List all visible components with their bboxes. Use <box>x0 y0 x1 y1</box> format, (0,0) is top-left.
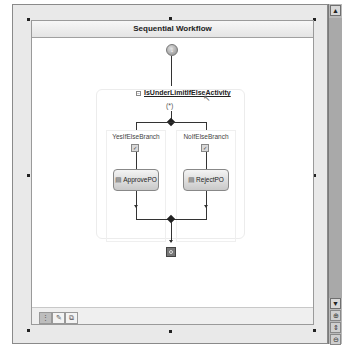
zoom-out-icon: ⊖ <box>333 336 339 343</box>
pan-button[interactable]: ⇕ <box>330 322 341 333</box>
zoom-in-button[interactable]: ⊕ <box>330 310 341 321</box>
selection-handle-bc[interactable] <box>169 330 172 333</box>
tab-fault-handlers-view[interactable]: ⧉ <box>65 312 78 324</box>
selection-handle-br[interactable] <box>313 329 316 332</box>
tab-cancel-handler-view[interactable]: ✎ <box>52 312 65 324</box>
scroll-down-icon: ▼ <box>332 300 339 307</box>
connector-line <box>136 152 137 170</box>
branch-condition-icon: ✓ <box>201 144 209 152</box>
arrow-head-icon <box>204 205 208 208</box>
arrow-head-icon <box>134 205 138 208</box>
connector-line <box>206 122 207 130</box>
scrollbar-track[interactable] <box>329 18 342 298</box>
arrow-head-icon <box>169 240 173 243</box>
code-activity-icon: ▤ <box>115 176 122 183</box>
workflow-start-icon: ↓ <box>166 44 178 56</box>
workflow-end-icon <box>166 247 176 257</box>
activity-reject-po[interactable]: ▤RejectPO <box>183 169 229 191</box>
connector-line <box>171 222 172 242</box>
zoom-in-icon: ⊕ <box>333 312 339 319</box>
activity-approve-po[interactable]: ▤ApprovePO <box>113 169 159 191</box>
vertical-scrollbar[interactable]: ▲ ▼ ⊕ ⇕ ⊖ <box>328 4 342 344</box>
sequential-workflow[interactable]: Sequential Workflow ↓ − IsUnderLimitIfEl… <box>31 20 314 325</box>
scroll-up-icon: ▲ <box>332 7 339 14</box>
collapse-icon[interactable]: − <box>136 91 141 96</box>
branch-label: YesIfElseBranch <box>107 133 165 140</box>
code-activity-icon: ▤ <box>188 176 195 183</box>
cancel-handler-icon: ✎ <box>56 314 62 321</box>
connector-line <box>171 56 172 86</box>
ifelse-activity-name[interactable]: IsUnderLimitIfElseActivity <box>144 89 231 96</box>
view-tabs-bar: ⋮ ✎ ⧉ <box>32 307 313 324</box>
branch-condition-icon: ✓ <box>131 144 139 152</box>
activity-label: ApprovePO <box>123 176 157 183</box>
minus-icon: − <box>137 90 140 96</box>
selection-handle-bl[interactable] <box>27 329 30 332</box>
condition-icon: (*) <box>166 102 173 109</box>
connector-line <box>136 122 137 130</box>
pan-icon: ⇕ <box>333 324 339 331</box>
selection-handle-tl[interactable] <box>27 18 30 21</box>
start-arrow-icon: ↓ <box>170 46 174 53</box>
selection-handle-ml[interactable] <box>27 174 30 177</box>
activity-label: RejectPO <box>196 176 224 183</box>
mouse-cursor-icon: ↖ <box>203 93 211 103</box>
connector-line <box>206 209 207 219</box>
zoom-out-button[interactable]: ⊖ <box>330 334 341 345</box>
workflow-canvas: ↓ − IsUnderLimitIfElseActivity ↖ (*) Yes… <box>32 37 313 308</box>
connector-line <box>136 209 137 219</box>
branch-label: NoIfElseBranch <box>177 133 235 140</box>
scroll-up-button[interactable]: ▲ <box>330 5 341 16</box>
scroll-down-button[interactable]: ▼ <box>330 298 341 309</box>
branch-split-line <box>136 122 207 123</box>
tab-workflow-view[interactable]: ⋮ <box>39 312 52 324</box>
fault-handlers-icon: ⧉ <box>69 314 74 321</box>
connector-line <box>206 152 207 170</box>
workflow-view-icon: ⋮ <box>42 314 49 321</box>
workflow-title: Sequential Workflow <box>32 21 313 38</box>
